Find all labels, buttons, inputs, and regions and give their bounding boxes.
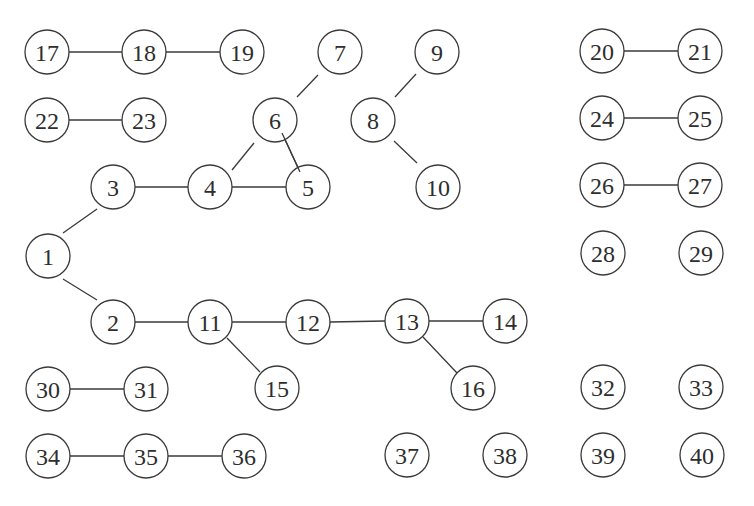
- node-label: 4: [204, 175, 216, 201]
- edge-6-7: [297, 75, 318, 97]
- node-13: 13: [385, 299, 429, 343]
- node-9: 9: [415, 30, 459, 74]
- nodes-layer: 1234567891011121314151617181920212223242…: [25, 29, 724, 478]
- node-label: 8: [367, 108, 379, 134]
- graph-diagram: 1234567891011121314151617181920212223242…: [0, 0, 754, 506]
- node-label: 18: [132, 40, 156, 66]
- node-label: 30: [36, 377, 60, 403]
- node-label: 22: [35, 108, 59, 134]
- node-25: 25: [678, 96, 722, 140]
- node-3: 3: [91, 165, 135, 209]
- node-label: 23: [132, 108, 156, 134]
- node-label: 7: [334, 40, 346, 66]
- node-34: 34: [26, 434, 70, 478]
- edge-8-9: [395, 74, 416, 97]
- node-label: 9: [431, 40, 443, 66]
- node-label: 36: [232, 444, 256, 470]
- node-7: 7: [318, 30, 362, 74]
- node-29: 29: [679, 231, 723, 275]
- node-22: 22: [25, 98, 69, 142]
- node-label: 6: [269, 108, 281, 134]
- edge-11-15: [227, 338, 260, 372]
- node-label: 34: [36, 444, 60, 470]
- node-38: 38: [483, 433, 527, 477]
- node-label: 27: [688, 173, 712, 199]
- edge-13-16: [423, 337, 457, 373]
- node-39: 39: [581, 433, 625, 477]
- node-37: 37: [385, 433, 429, 477]
- node-24: 24: [580, 96, 624, 140]
- node-36: 36: [222, 434, 266, 478]
- edge-1-2: [63, 279, 97, 300]
- node-label: 35: [134, 444, 158, 470]
- node-label: 25: [688, 106, 712, 132]
- node-label: 38: [493, 443, 517, 469]
- node-11: 11: [188, 300, 232, 344]
- node-31: 31: [124, 367, 168, 411]
- edge-6-5-overlay: [282, 133, 300, 172]
- node-label: 24: [590, 106, 614, 132]
- node-6: 6: [253, 98, 297, 142]
- edge-1-3: [63, 209, 97, 233]
- node-20: 20: [580, 29, 624, 73]
- node-label: 16: [461, 376, 485, 402]
- node-5: 5: [286, 165, 330, 209]
- node-14: 14: [483, 299, 527, 343]
- node-label: 21: [688, 39, 712, 65]
- node-18: 18: [122, 30, 166, 74]
- node-label: 29: [689, 241, 713, 267]
- node-label: 39: [591, 443, 615, 469]
- node-label: 5: [302, 175, 314, 201]
- node-2: 2: [91, 300, 135, 344]
- node-label: 3: [107, 175, 119, 201]
- node-40: 40: [680, 433, 724, 477]
- node-28: 28: [581, 231, 625, 275]
- node-label: 37: [395, 443, 419, 469]
- node-label: 2: [107, 310, 119, 336]
- node-10: 10: [416, 165, 460, 209]
- node-33: 33: [679, 365, 723, 409]
- node-label: 20: [590, 39, 614, 65]
- node-label: 12: [296, 310, 320, 336]
- node-label: 1: [42, 244, 54, 270]
- node-32: 32: [581, 365, 625, 409]
- node-21: 21: [678, 29, 722, 73]
- node-4: 4: [188, 165, 232, 209]
- node-label: 15: [265, 376, 289, 402]
- node-35: 35: [124, 434, 168, 478]
- node-label: 26: [590, 173, 614, 199]
- node-15: 15: [255, 366, 299, 410]
- node-label: 40: [690, 443, 714, 469]
- node-label: 33: [689, 375, 713, 401]
- node-label: 31: [134, 377, 158, 403]
- node-26: 26: [580, 163, 624, 207]
- node-label: 19: [230, 40, 254, 66]
- node-label: 17: [35, 40, 59, 66]
- node-23: 23: [122, 98, 166, 142]
- edge-12-13: [330, 321, 385, 322]
- node-label: 28: [591, 241, 615, 267]
- node-8: 8: [351, 98, 395, 142]
- edge-8-10: [394, 141, 417, 163]
- node-19: 19: [220, 30, 264, 74]
- node-label: 32: [591, 375, 615, 401]
- node-30: 30: [26, 367, 70, 411]
- node-label: 14: [493, 309, 517, 335]
- node-label: 13: [395, 309, 419, 335]
- node-12: 12: [286, 300, 330, 344]
- node-17: 17: [25, 30, 69, 74]
- node-16: 16: [451, 366, 495, 410]
- edge-4-6: [232, 143, 254, 170]
- node-label: 11: [198, 310, 221, 336]
- node-27: 27: [678, 163, 722, 207]
- node-1: 1: [26, 234, 70, 278]
- node-label: 10: [426, 175, 450, 201]
